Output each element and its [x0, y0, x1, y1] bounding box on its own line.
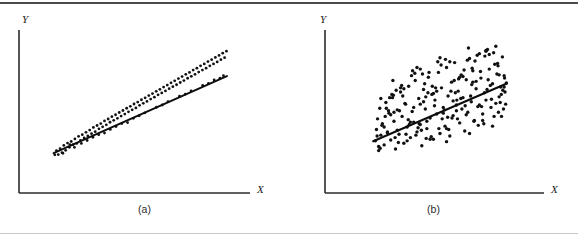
- data-point: [458, 121, 461, 124]
- data-point: [489, 84, 492, 87]
- data-point: [420, 129, 423, 132]
- data-point: [425, 120, 428, 123]
- data-point: [459, 97, 462, 100]
- data-point: [157, 93, 160, 96]
- data-point: [500, 115, 503, 118]
- data-point: [501, 89, 504, 92]
- data-point: [501, 55, 504, 58]
- data-point: [402, 142, 405, 145]
- data-point: [420, 144, 423, 147]
- data-point: [439, 63, 442, 66]
- data-point: [155, 90, 158, 93]
- data-point: [499, 101, 502, 104]
- data-point: [465, 113, 468, 116]
- data-point: [414, 133, 417, 136]
- data-point: [133, 103, 136, 106]
- data-point: [118, 111, 121, 114]
- data-point: [402, 87, 405, 90]
- figure-bottom-rule: [0, 233, 578, 234]
- data-point: [433, 98, 436, 101]
- data-point: [207, 60, 210, 63]
- data-point: [494, 45, 497, 48]
- data-point: [197, 71, 200, 74]
- data-point: [114, 113, 117, 116]
- data-point: [423, 82, 426, 85]
- data-point: [488, 67, 491, 70]
- data-point: [173, 79, 176, 82]
- data-point: [392, 94, 395, 97]
- data-point: [502, 107, 505, 110]
- y-axis-label-a: Y: [22, 14, 28, 25]
- data-point: [125, 107, 128, 110]
- data-point: [116, 117, 119, 120]
- data-point: [451, 99, 454, 102]
- data-point: [162, 86, 165, 89]
- data-point: [433, 104, 436, 107]
- data-point: [168, 87, 171, 90]
- data-point: [138, 104, 141, 107]
- data-point: [382, 125, 385, 128]
- data-point: [159, 88, 162, 91]
- data-point: [66, 142, 69, 145]
- data-point: [494, 102, 497, 105]
- axes-b: [325, 30, 544, 193]
- data-point: [378, 107, 381, 110]
- data-point: [449, 89, 452, 92]
- data-point: [81, 133, 84, 136]
- data-point: [462, 68, 465, 71]
- data-point: [410, 74, 413, 77]
- data-point: [440, 117, 443, 120]
- data-point: [96, 124, 99, 127]
- data-point: [219, 58, 222, 61]
- data-point: [424, 107, 427, 110]
- data-point: [491, 124, 494, 127]
- data-point: [378, 146, 381, 149]
- data-point: [223, 56, 226, 59]
- data-point: [120, 115, 123, 118]
- data-point: [438, 56, 441, 59]
- panel-b: Y X (b): [289, 0, 578, 240]
- data-point: [212, 63, 215, 66]
- data-point: [225, 50, 228, 53]
- data-point: [474, 80, 477, 83]
- data-point: [179, 81, 182, 84]
- data-point: [444, 58, 447, 61]
- data-point: [480, 105, 483, 108]
- data-point: [481, 112, 484, 115]
- data-point: [431, 85, 434, 88]
- data-point: [416, 126, 419, 129]
- data-point: [453, 79, 456, 82]
- data-point: [490, 98, 493, 101]
- data-point: [497, 73, 500, 76]
- data-points-a: [53, 50, 227, 156]
- scatter-plot-a: [0, 0, 289, 205]
- figure-container: Y X (a) Y X (b): [0, 0, 578, 240]
- data-point: [419, 67, 422, 70]
- data-point: [456, 117, 459, 120]
- data-point: [393, 136, 396, 139]
- data-point: [448, 134, 451, 137]
- data-point: [465, 78, 468, 81]
- data-point: [482, 122, 485, 125]
- data-point: [476, 54, 479, 57]
- data-point: [389, 138, 392, 141]
- data-point: [382, 143, 385, 146]
- x-axis-label-b: X: [551, 184, 558, 195]
- data-point: [483, 54, 486, 57]
- data-point: [446, 94, 449, 97]
- data-point: [473, 59, 476, 62]
- data-point: [456, 89, 459, 92]
- data-point: [177, 77, 180, 80]
- data-point: [131, 108, 134, 111]
- data-point: [424, 95, 427, 98]
- data-point: [450, 116, 453, 119]
- data-point: [194, 73, 197, 76]
- data-point: [203, 63, 206, 66]
- data-point: [457, 77, 460, 80]
- data-point: [73, 146, 76, 149]
- data-point: [147, 94, 150, 97]
- data-point: [454, 91, 457, 94]
- data-point: [496, 64, 499, 67]
- data-point: [218, 54, 221, 57]
- data-point: [421, 72, 424, 75]
